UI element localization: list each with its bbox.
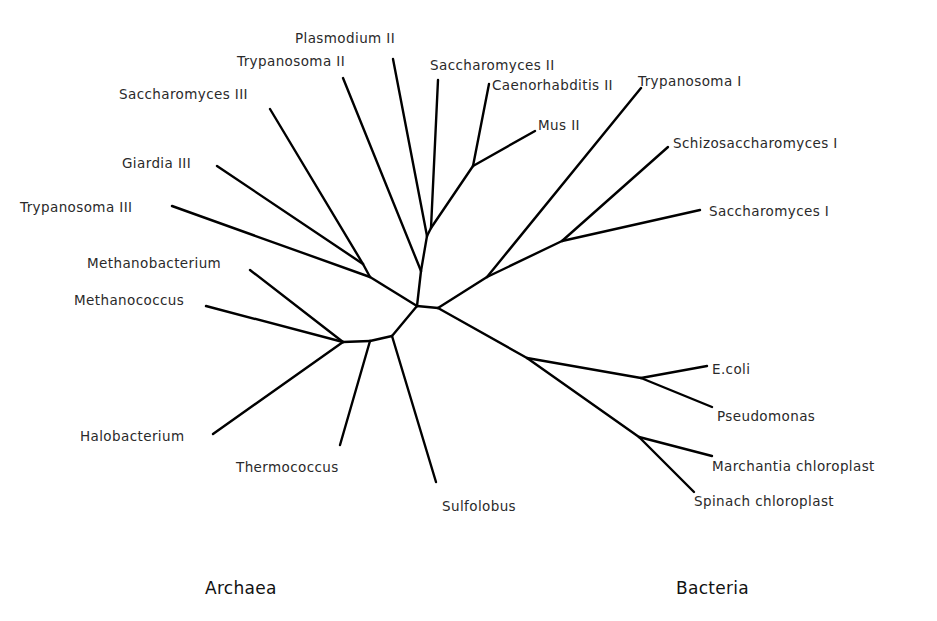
internal-branch [438,277,487,308]
internal-branch [527,358,641,378]
leaf-label-spinach-chloroplast: Spinach chloroplast [694,493,834,509]
leaf-branch-thermococcus [340,341,370,445]
leaf-label-methanobacterium: Methanobacterium [87,255,221,271]
internal-branch [417,271,421,306]
leaf-label-plasmodium-ii: Plasmodium II [295,30,395,46]
leaf-label-giardia-iii: Giardia III [122,155,191,171]
leaf-branch-halobacterium [213,342,343,434]
leaf-branch-saccharomyces-ii [431,80,438,228]
tree-branches [172,59,712,492]
leaf-label-trypanosoma-i: Trypanosoma I [637,73,742,89]
internal-branch [417,306,438,308]
leaf-branch-mus-ii [473,131,535,166]
internal-branch [438,308,527,358]
internal-branch [392,306,417,336]
internal-branch [343,341,370,342]
domain-label-archaea: Archaea [205,578,277,598]
leaf-label-halobacterium: Halobacterium [80,428,185,444]
internal-branch [527,358,639,437]
internal-branch [370,277,417,306]
leaf-labels: Trypanosoma IIIGiardia IIISaccharomyces … [19,30,875,514]
leaf-label-schizosaccharomyces-i: Schizosaccharomyces I [673,135,838,151]
domain-label-bacteria: Bacteria [676,578,749,598]
leaf-branch-schizosaccharomyces-i [562,147,668,241]
leaf-branch-saccharomyces-i [562,210,700,241]
leaf-label-e-coli: E.coli [712,361,750,377]
phylogenetic-tree: Trypanosoma IIIGiardia IIISaccharomyces … [0,0,937,621]
domain-labels: Archaea Bacteria [205,578,749,598]
leaf-label-saccharomyces-ii: Saccharomyces II [430,57,555,73]
leaf-label-mus-ii: Mus II [538,117,580,133]
leaf-branch-pseudomonas [641,378,712,407]
leaf-branch-saccharomyces-iii [270,109,363,264]
leaf-branch-methanobacterium [250,270,343,342]
leaf-label-saccharomyces-iii: Saccharomyces III [119,86,248,102]
leaf-label-saccharomyces-i: Saccharomyces I [709,203,829,219]
leaf-label-pseudomonas: Pseudomonas [717,408,815,424]
leaf-label-marchantia-chloroplast: Marchantia chloroplast [712,458,875,474]
leaf-label-trypanosoma-ii: Trypanosoma II [236,53,345,69]
leaf-label-trypanosoma-iii: Trypanosoma III [19,199,132,215]
leaf-branch-sulfolobus [392,336,436,482]
leaf-label-sulfolobus: Sulfolobus [442,498,516,514]
leaf-branch-caenorhabditis-ii [473,84,489,166]
leaf-branch-plasmodium-ii [393,59,427,236]
internal-branch [487,241,562,277]
leaf-branch-trypanosoma-ii [343,78,421,271]
internal-branch [431,166,473,228]
leaf-label-thermococcus: Thermococcus [235,459,339,475]
leaf-label-caenorhabditis-ii: Caenorhabditis II [492,77,613,93]
internal-branch [370,336,392,341]
leaf-label-methanococcus: Methanococcus [74,292,184,308]
leaf-branch-methanococcus [206,306,343,342]
leaf-branch-e-coli [641,366,707,378]
internal-branch [421,236,427,271]
